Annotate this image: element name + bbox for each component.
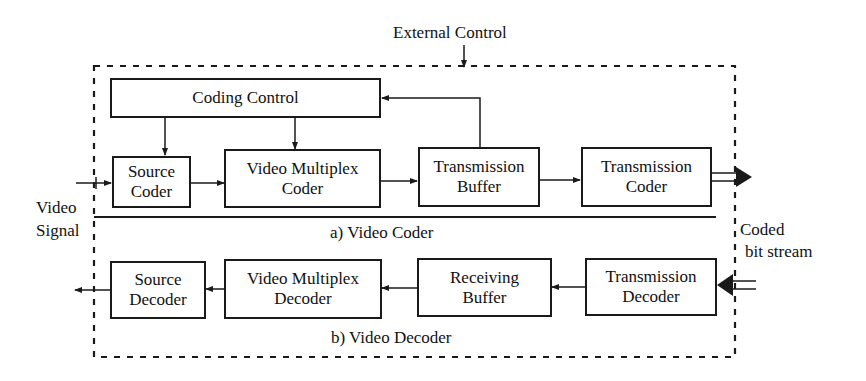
video-coder-caption: a) Video Coder: [330, 222, 433, 243]
video-codec-diagram: External Control Video Signal Coded bit …: [0, 0, 866, 381]
transmission-decoder-block: Transmission Decoder: [585, 258, 717, 316]
arrow-buffer-feedback: [382, 98, 480, 147]
block-label-line1: Video Multiplex: [247, 159, 359, 179]
video-decoder-caption: b) Video Decoder: [331, 327, 451, 348]
block-label-line2: Coder: [282, 179, 324, 199]
video-signal-label: Video Signal: [36, 196, 79, 242]
transmission-buffer-block: Transmission Buffer: [418, 147, 540, 207]
block-label-line2: Coder: [626, 177, 668, 197]
block-label-line1: Receiving: [450, 268, 519, 288]
coding-control-block: Coding Control: [110, 78, 381, 118]
block-label-line1: Source: [128, 162, 175, 182]
block-label-line1: Transmission: [605, 267, 696, 287]
transmission-coder-block: Transmission Coder: [581, 147, 712, 207]
coded-input-arrowhead: [717, 274, 733, 296]
block-label-line2: Buffer: [462, 288, 506, 308]
block-label-line2: Decoder: [622, 287, 680, 307]
block-label-line1: Transmission: [433, 157, 524, 177]
video-multiplex-decoder-block: Video Multiplex Decoder: [224, 259, 382, 319]
block-label-line1: Transmission: [601, 157, 692, 177]
video-signal-line1: Video: [36, 196, 79, 219]
block-label-line2: Decoder: [274, 289, 332, 309]
block-label-line2: Decoder: [129, 290, 187, 310]
external-control-label: External Control: [393, 22, 507, 43]
coded-bit-stream-line1: Coded: [740, 219, 813, 241]
block-label-line2: Buffer: [457, 177, 501, 197]
video-multiplex-coder-block: Video Multiplex Coder: [224, 149, 381, 208]
source-decoder-block: Source Decoder: [110, 261, 206, 319]
block-label-line2: Coder: [131, 182, 173, 202]
video-signal-line2: Signal: [36, 219, 79, 242]
coding-control-label: Coding Control: [192, 88, 298, 108]
block-label-line1: Video Multiplex: [247, 269, 359, 289]
block-label-line1: Source: [134, 270, 181, 290]
source-coder-block: Source Coder: [112, 156, 191, 208]
coded-output-arrowhead: [736, 167, 752, 187]
coded-bit-stream-line2: bit stream: [740, 241, 813, 263]
receiving-buffer-block: Receiving Buffer: [417, 258, 552, 317]
coded-bit-stream-label: Coded bit stream: [740, 219, 813, 263]
